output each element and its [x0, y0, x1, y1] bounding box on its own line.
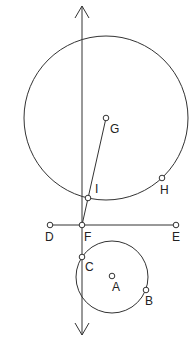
point-H — [159, 175, 165, 181]
label-C: C — [85, 260, 94, 274]
label-B: B — [145, 294, 153, 308]
lines-layer — [24, 6, 188, 335]
point-F — [79, 222, 85, 228]
label-E: E — [172, 230, 180, 244]
label-F: F — [84, 230, 91, 244]
label-I: I — [95, 182, 98, 196]
point-C — [79, 254, 85, 260]
point-B — [143, 287, 149, 293]
segment-GF — [82, 118, 106, 225]
geometry-diagram: GHIDFECAB — [0, 0, 190, 342]
label-D: D — [45, 230, 54, 244]
points-layer — [47, 115, 179, 293]
label-A: A — [112, 280, 120, 294]
point-G — [103, 115, 109, 121]
point-I — [85, 195, 91, 201]
labels-layer: GHIDFECAB — [45, 122, 180, 308]
label-H: H — [160, 183, 169, 197]
point-E — [173, 222, 179, 228]
point-A — [109, 273, 115, 279]
point-D — [47, 222, 53, 228]
label-G: G — [110, 122, 119, 136]
